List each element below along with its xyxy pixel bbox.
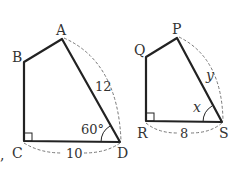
right-angle-marker-c <box>24 133 32 141</box>
vertex-label-s: S <box>219 125 229 141</box>
vertex-label-a: A <box>55 22 67 38</box>
angle-label-s: x <box>193 99 201 115</box>
dimension-arc-ps <box>179 37 223 121</box>
figure-abcd: A B C D 12 10 60° <box>12 22 128 161</box>
side-length-cd: 10 <box>66 146 83 161</box>
vertex-label-b: B <box>12 49 22 65</box>
vertex-label-q: Q <box>134 42 145 58</box>
dimension-arc-rs <box>146 123 177 133</box>
vertex-label-r: R <box>137 125 148 141</box>
dimension-arc-cd-right <box>84 143 120 153</box>
side-length-ad: 12 <box>95 79 112 94</box>
angle-arc-s <box>203 106 212 122</box>
side-length-rs: 8 <box>180 126 188 141</box>
vertex-label-c: C <box>12 145 23 161</box>
vertex-label-p: P <box>172 21 181 37</box>
side-label-ps: y <box>205 67 215 83</box>
similar-quadrilaterals-diagram: A B C D 12 10 60° P Q R S y 8 x , <box>0 0 248 177</box>
dimension-arc-rs-right <box>191 123 222 133</box>
vertex-label-d: D <box>117 145 128 161</box>
stray-mark: , <box>0 147 4 163</box>
right-angle-marker-r <box>146 113 154 121</box>
figure-pqrs: P Q R S y 8 x <box>134 21 229 141</box>
angle-label-d: 60° <box>81 122 104 137</box>
dimension-arc-cd <box>24 143 62 153</box>
